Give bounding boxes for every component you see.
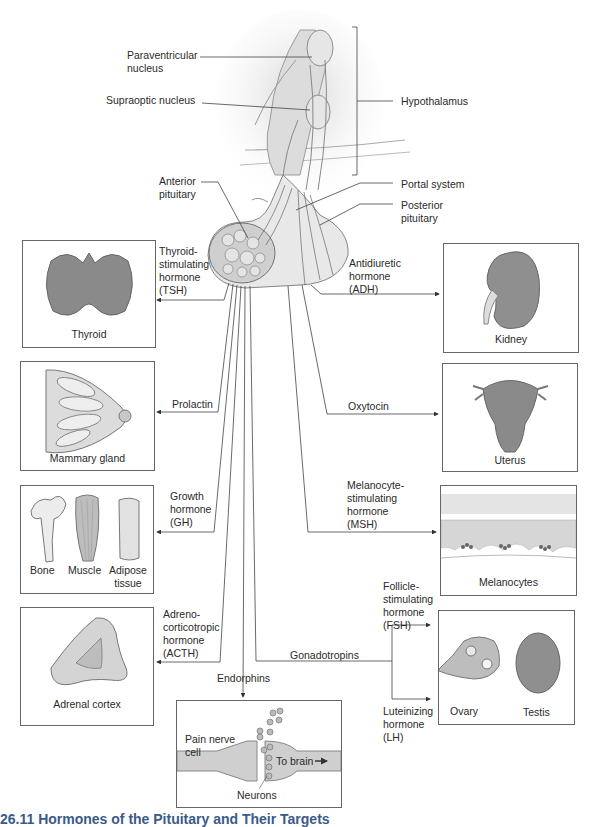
label-acth: Adreno- corticotropic hormone (ACTH) [163,608,220,660]
caption-neurons: Neurons [237,789,277,802]
caption-kidney: Kidney [444,333,578,345]
label-gh: Growth hormone (GH) [170,490,211,529]
figure-caption: 26.11 Hormones of the Pituitary and Thei… [0,811,330,827]
caption-muscle: Muscle [68,564,101,577]
target-uterus-box: Uterus [442,363,578,472]
caption-adipose-tissue: Adipose tissue [109,564,147,590]
lh-arrow [392,661,430,699]
target-mammary-box: Mammary gland [20,361,155,471]
caption-uterus: Uterus [443,454,577,466]
acth-arrow [157,286,241,662]
oxytocin-arrow [302,285,438,414]
label-oxytocin: Oxytocin [348,400,389,413]
label-lh: Luteinizing hormone (LH) [383,705,433,744]
target-thyroid-box: Thyroid [22,240,156,348]
label-posterior-pituitary: Posterior pituitary [401,199,443,225]
label-gonadotropins: Gonadotropins [290,649,359,662]
endorphins-arrow [243,286,245,697]
label-supraoptic-nucleus: Supraoptic nucleus [106,94,195,107]
label-anterior-pituitary: Anterior pituitary [159,175,196,201]
caption-to-brain: To brain [276,755,313,768]
caption-adrenal-cortex: Adrenal cortex [21,698,153,710]
label-adh: Antidiuretic hormone (ADH) [349,257,401,296]
label-tsh: Thyroid- stimulating hormone (TSH) [159,245,209,297]
target-adrenal-box: Adrenal cortex [20,607,154,726]
caption-thyroid: Thyroid [23,328,155,340]
label-prolactin: Prolactin [172,398,213,411]
caption-melanocytes: Melanocytes [441,576,576,588]
target-kidney-box: Kidney [443,243,579,353]
target-melanocytes-box: Melanocytes [440,485,577,596]
label-paraventricular-nucleus: Paraventricular nucleus [127,49,198,75]
caption-pain-nerve-cell: Pain nerve cell [185,733,235,759]
caption-testis: Testis [523,706,550,719]
target-pain-nerve-box: Pain nerve cell To brain Neurons [176,700,342,808]
label-fsh: Follicle- stimulating hormone (FSH) [383,580,433,632]
label-hypothalamus: Hypothalamus [401,95,468,108]
caption-bone: Bone [30,564,55,577]
caption-mammary-gland: Mammary gland [21,452,154,464]
caption-ovary: Ovary [450,705,478,718]
target-ovary-testis-box: Ovary Testis [438,610,575,725]
gonadotropins-line [250,286,392,661]
label-msh: Melanocyte- stimulating hormone (MSH) [347,479,404,531]
target-bone-muscle-adipose-box: Bone Muscle Adipose tissue [20,485,154,594]
label-endorphins: Endorphins [217,672,270,685]
hypothalamus-illustration [215,10,410,200]
prolactin-arrow [157,284,233,412]
label-portal-system: Portal system [401,178,465,191]
